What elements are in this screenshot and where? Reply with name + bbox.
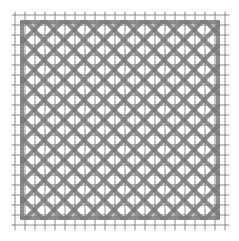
diagonal-pattern [22, 22, 218, 218]
grid-pattern-canvas [0, 0, 239, 241]
pattern-diagram [0, 0, 239, 241]
